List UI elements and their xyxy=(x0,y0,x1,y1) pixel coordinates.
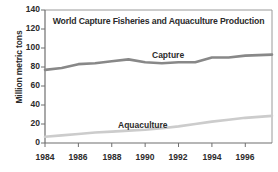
y-tick-label-120: 120 xyxy=(18,24,40,33)
y-tick-label-60: 60 xyxy=(18,81,40,90)
series-label-capture: Capture xyxy=(152,50,184,60)
y-tick-label-0: 0 xyxy=(18,138,40,147)
series-label-aquaculture: Aquaculture xyxy=(118,120,168,130)
chart-title: World Capture Fisheries and Aquaculture … xyxy=(45,16,272,26)
y-tick-label-80: 80 xyxy=(18,62,40,71)
y-axis-tick-labels: 140 120 100 80 60 40 20 0 xyxy=(16,0,40,172)
x-tick-label-1996: 1996 xyxy=(225,152,265,162)
y-tick-label-100: 100 xyxy=(18,43,40,52)
x-axis-ticks xyxy=(45,143,245,147)
chart-container: Million metric tons 140 120 100 80 60 40… xyxy=(0,0,278,172)
y-tick-label-20: 20 xyxy=(18,119,40,128)
y-tick-label-140: 140 xyxy=(18,5,40,14)
y-tick-label-40: 40 xyxy=(18,100,40,109)
